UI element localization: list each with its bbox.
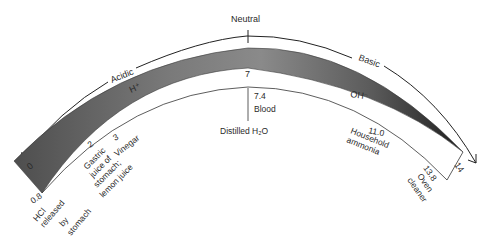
marker-household-ammonia: 11.0 Household ammonia bbox=[345, 125, 391, 157]
ph-band bbox=[14, 48, 463, 193]
neutral-label: Neutral bbox=[231, 14, 260, 24]
arrow-arc-right bbox=[384, 66, 476, 163]
marker-blood: 7.4 Blood bbox=[254, 91, 276, 114]
marker-value: 7.4 bbox=[254, 91, 266, 101]
oh-ion-label: OH⁻ bbox=[350, 89, 370, 101]
ph-seven-label: 7 bbox=[245, 69, 250, 79]
marker-vinegar: 3 Vinegar bbox=[111, 132, 141, 159]
marker-distilled-water: Distilled H₂O bbox=[220, 126, 269, 136]
basic-label: Basic bbox=[357, 52, 382, 69]
ph-scale-diagram: Neutral Acidic Basic H⁺ OH⁻ 0 7 14 0.8 H… bbox=[0, 0, 487, 237]
marker-line: Distilled H₂O bbox=[220, 126, 269, 136]
ph-fourteen-label: 14 bbox=[452, 160, 466, 174]
marker-value: 3 bbox=[111, 132, 120, 143]
marker-hcl: 0.8 HCl released by stomach bbox=[28, 191, 93, 237]
marker-oven-cleaner: 13.8 Oven cleaner bbox=[405, 163, 439, 204]
marker-line: Blood bbox=[254, 104, 276, 114]
